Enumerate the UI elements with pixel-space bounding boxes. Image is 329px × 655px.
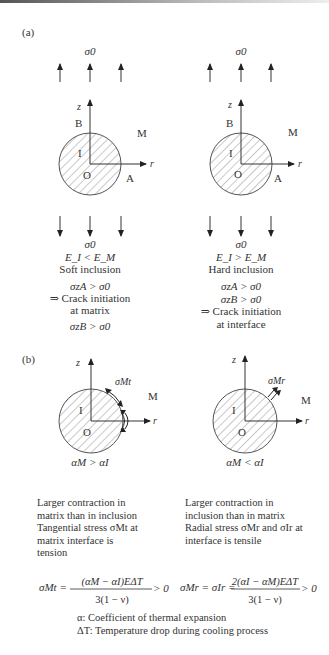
sigma0-bottom-right: σ0 xyxy=(236,238,247,250)
z-axis-label: z xyxy=(227,99,232,110)
crack-initiation-right-line2: at interface xyxy=(216,318,265,330)
legend-alpha: α: Coefficient of thermal expansion xyxy=(77,611,317,624)
sigma0-top-left: σ0 xyxy=(85,45,96,57)
formula-radial: σMr = σIr = 2(αI − αM)EΔT 3(1 − ν) > 0 xyxy=(180,576,317,606)
tangential-stress-label: σMt xyxy=(115,376,131,387)
cte-condition-left: αM > αI xyxy=(71,456,110,468)
matrix-label: M xyxy=(148,390,158,402)
radial-stress-line xyxy=(268,390,274,397)
panel-a-right-diagram: σ0 z r B I O A M σ0 E_I > E_M Hard inclu… xyxy=(201,45,302,330)
point-A: A xyxy=(126,172,134,184)
panel-b-right-diagram: z r I O M σMr αM < αI xyxy=(213,354,311,468)
point-B: B xyxy=(226,117,233,129)
z-axis-label: z xyxy=(76,101,81,112)
stress-condition-zB-right: σzB > σ0 xyxy=(221,293,262,305)
formula-rhs: > 0 xyxy=(153,582,169,594)
point-I: I xyxy=(78,147,82,159)
soft-inclusion-label: Soft inclusion xyxy=(59,263,121,275)
panel-a-left-diagram: σ0 z r B I O A M σ0 E_I < E_M Soft inclu… xyxy=(50,45,154,332)
crack-initiation-left-line1: ⇒ Crack initiation xyxy=(50,292,131,304)
stress-condition-zA-right: σzA > σ0 xyxy=(221,280,262,292)
stress-condition-zA-left: σzA > σ0 xyxy=(70,280,111,292)
desc-line: interface is tensile xyxy=(185,535,325,548)
desc-line: Tangential stress σMt at xyxy=(37,522,162,535)
desc-line: matrix interface is xyxy=(37,535,162,548)
cte-condition-right: αM < αI xyxy=(226,456,265,468)
point-O: O xyxy=(238,426,246,438)
description-left: Larger contraction in matrix than in inc… xyxy=(37,497,162,560)
sigma0-top-right: σ0 xyxy=(236,45,247,57)
crack-initiation-right-line1: ⇒ Crack initiation xyxy=(201,305,282,317)
formula-lhs: σMt = xyxy=(39,581,67,593)
matrix-label: M xyxy=(301,394,311,406)
point-O: O xyxy=(83,426,91,438)
crack-initiation-left-line2: at matrix xyxy=(70,304,110,316)
panel-a-label: (a) xyxy=(22,26,35,39)
desc-line: Larger contraction in xyxy=(185,497,325,510)
sigma0-bottom-left: σ0 xyxy=(85,238,96,250)
stress-condition-zB-left: σzB > σ0 xyxy=(70,320,111,332)
formula-tangential: σMt = (αM − αI)EΔT 3(1 − ν) > 0 xyxy=(39,576,169,606)
point-I: I xyxy=(232,404,236,416)
panel-b-left-diagram: z r I O M σMt αM > αI xyxy=(59,357,158,468)
formula-numerator: (αM − αI)EΔT xyxy=(81,576,143,588)
point-O: O xyxy=(83,169,91,181)
radial-arrow-head xyxy=(275,390,281,396)
formula-numerator: 2(αI − αM)EΔT xyxy=(232,576,299,588)
formula-rhs: > 0 xyxy=(301,582,317,594)
point-I: I xyxy=(229,147,233,159)
modulus-condition-hard: E_I > E_M xyxy=(215,251,267,263)
formula-denominator: 3(1 − ν) xyxy=(95,594,129,606)
formula-lhs: σMr = σIr = xyxy=(180,581,235,593)
desc-line: Larger contraction in xyxy=(37,497,162,510)
matrix-label: M xyxy=(137,127,147,139)
desc-line: matrix than in inclusion xyxy=(37,510,162,523)
legend-deltaT: ΔT: Temperature drop during cooling proc… xyxy=(77,624,317,637)
point-B: B xyxy=(75,117,82,129)
desc-line: Radial stress σMr and σIr at xyxy=(185,522,325,535)
formula-denominator: 3(1 − ν) xyxy=(248,594,282,606)
r-axis-label: r xyxy=(305,415,309,426)
radial-stress-label: σMr xyxy=(268,375,285,386)
description-right: Larger contraction in inclusion than in … xyxy=(185,497,325,547)
r-axis-label: r xyxy=(153,415,157,426)
matrix-label: M xyxy=(288,126,298,138)
desc-line: tension xyxy=(37,547,162,560)
legend: α: Coefficient of thermal expansion ΔT: … xyxy=(77,611,317,637)
r-axis-label: r xyxy=(150,158,154,169)
desc-line: inclusion than in matrix xyxy=(185,510,325,523)
z-axis-label: z xyxy=(231,354,236,365)
point-A: A xyxy=(274,172,282,184)
r-axis-label: r xyxy=(298,158,302,169)
modulus-condition-soft: E_I < E_M xyxy=(64,251,116,263)
point-I: I xyxy=(79,404,83,416)
hard-inclusion-label: Hard inclusion xyxy=(208,263,274,275)
z-axis-label: z xyxy=(75,357,80,368)
panel-b-label: (b) xyxy=(22,353,35,366)
point-O: O xyxy=(234,168,242,180)
radial-stress-line xyxy=(271,393,277,400)
